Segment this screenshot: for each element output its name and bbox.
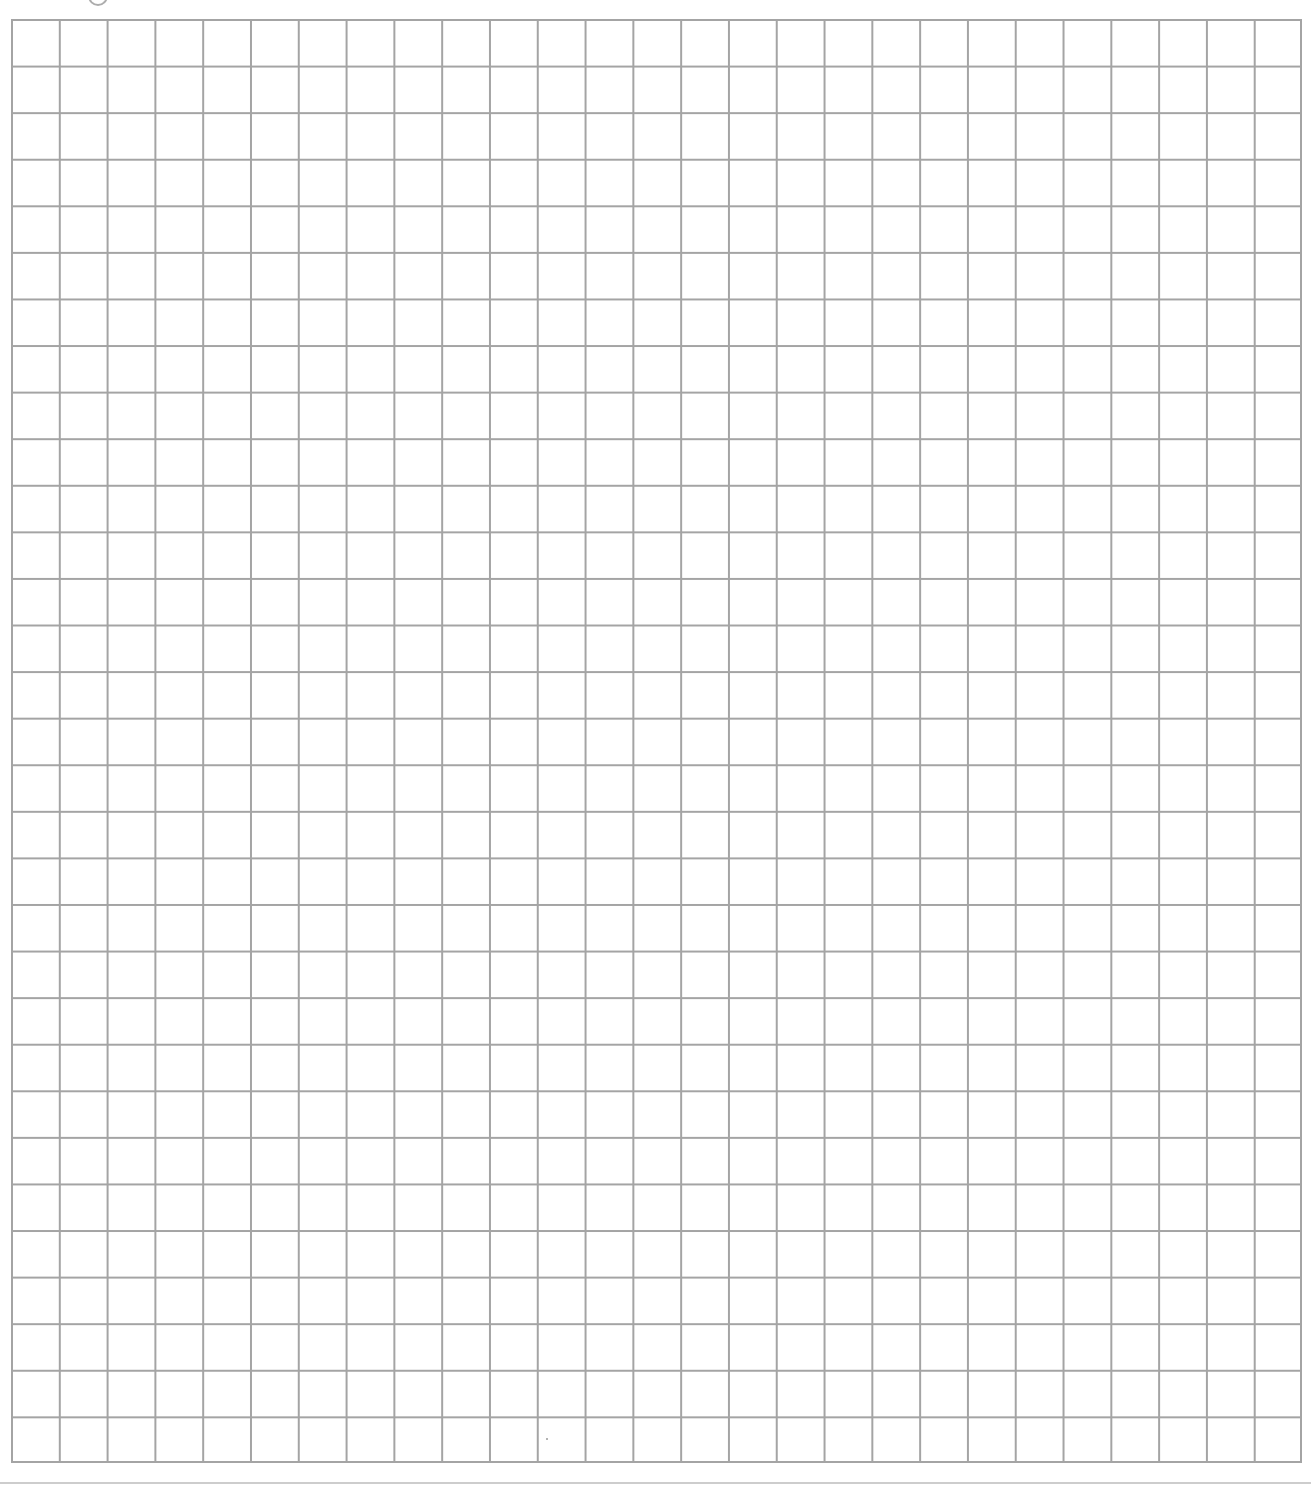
- scan-speck: [546, 1438, 548, 1440]
- cropped-heading-descender: [84, 0, 114, 6]
- page-bottom-rule: [0, 1482, 1311, 1484]
- letter-g-descender: [88, 0, 108, 6]
- graph-paper-grid: [11, 19, 1302, 1463]
